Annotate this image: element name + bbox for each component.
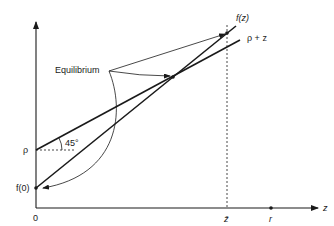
f0-point: [34, 186, 38, 190]
arrow-to-equilibrium: [109, 71, 170, 76]
rho-label: ρ: [23, 145, 28, 155]
f0-label: f(0): [16, 183, 30, 193]
axes: [36, 22, 318, 208]
rho-plus-z-line: [36, 40, 240, 150]
equilibrium-point: [171, 75, 175, 79]
equilibrium-diagram: Equilibrium f(z) ρ + z 45° ρ f(0) 0 z̄ r…: [0, 0, 334, 226]
r-label: r: [269, 214, 273, 224]
angle-label: 45°: [65, 138, 79, 148]
zbar-label: z̄: [223, 214, 229, 224]
arrow-to-fzbar: [109, 34, 225, 71]
z-axis-label: z: [322, 203, 328, 213]
equilibrium-label: Equilibrium: [55, 65, 100, 75]
rho-plus-z-label: ρ + z: [247, 33, 267, 43]
r-point: [269, 206, 273, 210]
arrow-to-f0: [43, 71, 116, 188]
origin-label: 0: [33, 213, 38, 223]
fz-line: [36, 26, 236, 188]
fzbar-point: [225, 31, 229, 35]
fz-label: f(z): [236, 13, 249, 23]
angle-arc: [59, 138, 62, 150]
